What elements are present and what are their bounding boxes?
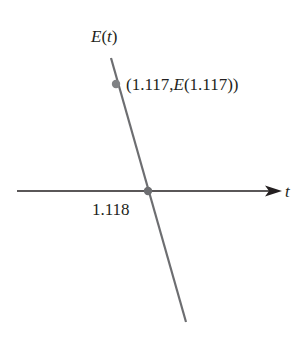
- tangent-line-diagram: E(t) (1.117,E(1.117)) 1.118 t: [0, 0, 303, 342]
- e-of-t-label: E(t): [90, 27, 117, 46]
- root-point-1-118: [144, 187, 152, 195]
- t-axis-label: t: [285, 182, 291, 201]
- root-label: 1.118: [92, 200, 130, 219]
- point-label: (1.117,E(1.117)): [126, 75, 239, 94]
- point-1-117: [112, 80, 120, 88]
